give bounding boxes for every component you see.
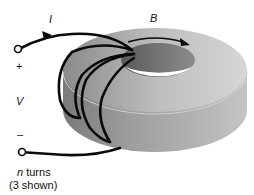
turns-word: turns: [23, 166, 51, 178]
voltage-label: V: [16, 95, 23, 107]
negative-terminal: [19, 149, 26, 156]
current-label: I: [49, 13, 52, 25]
turns-label: n turns: [17, 166, 51, 178]
positive-terminal: [15, 46, 22, 53]
turns-note: (3 shown): [9, 179, 57, 191]
field-label: B: [150, 12, 157, 24]
minus-sign: –: [17, 128, 23, 140]
plus-sign: +: [16, 60, 22, 72]
